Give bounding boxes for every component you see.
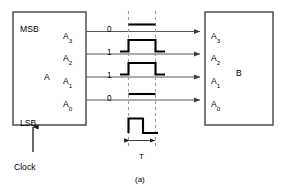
waveform-a1 bbox=[120, 63, 165, 75]
register-a-port-a3: A3 bbox=[63, 25, 72, 44]
register-b-port-a3: A3 bbox=[211, 25, 220, 44]
clock-label: Clock bbox=[14, 156, 36, 174]
period-label: T bbox=[139, 145, 144, 163]
register-b-port-a1: A1 bbox=[211, 70, 220, 89]
bit-value-a1: 1 bbox=[107, 64, 112, 82]
register-b-port-a0: A0 bbox=[211, 93, 220, 112]
parallel-transfer-diagram bbox=[0, 0, 286, 196]
register-a-port-a2: A2 bbox=[63, 47, 72, 66]
figure-caption: (a) bbox=[135, 168, 145, 186]
waveform-clock-pulse bbox=[129, 119, 159, 134]
bit-value-a3: 0 bbox=[107, 18, 112, 36]
register-a-port-a0: A0 bbox=[63, 93, 72, 112]
register-a-name: A bbox=[44, 66, 50, 84]
register-b-name: B bbox=[236, 62, 242, 80]
figure-canvas: MSB LSB A B A3 A2 A1 A0 A3 A2 A1 A0 0 1 bbox=[0, 0, 286, 196]
lsb-label: LSB bbox=[20, 112, 36, 130]
bit-value-a2: 1 bbox=[107, 41, 112, 59]
register-a-port-a1: A1 bbox=[63, 70, 72, 89]
waveform-a2 bbox=[120, 40, 165, 52]
msb-label: MSB bbox=[20, 18, 39, 36]
register-b-port-a2: A2 bbox=[211, 47, 220, 66]
bit-value-a0: 0 bbox=[107, 87, 112, 105]
